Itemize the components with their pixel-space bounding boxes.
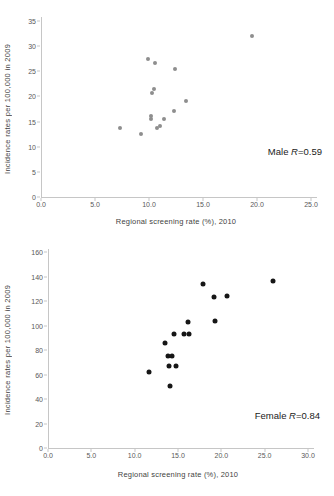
data-point — [187, 332, 192, 337]
y-tick-mark — [37, 46, 40, 47]
y-tick-mark — [44, 276, 47, 277]
data-point — [162, 117, 166, 121]
y-tick-label: 15 — [28, 118, 36, 125]
y-tick-mark — [44, 301, 47, 302]
y-tick-mark — [37, 71, 40, 72]
y-tick-label: 140 — [31, 273, 43, 280]
data-point — [174, 363, 179, 368]
correlation-annotation: Male R=0.59 — [268, 146, 322, 157]
x-axis-line — [41, 197, 317, 198]
y-tick-label: 10 — [28, 143, 36, 150]
data-point — [150, 91, 154, 95]
x-tick-label: 15.0 — [171, 452, 185, 459]
x-axis-tick-labels: 0.05.010.015.020.025.030.0 — [48, 452, 308, 462]
group-label: Male — [268, 146, 289, 157]
y-tick-mark — [44, 252, 47, 253]
group-label: Female — [255, 410, 287, 421]
data-point — [146, 57, 150, 61]
y-axis-tick-labels: 05101520253035 — [0, 21, 36, 197]
r-value: =0.59 — [298, 146, 322, 157]
correlation-annotation: Female R=0.84 — [255, 410, 320, 421]
x-tick-label: 5.0 — [86, 452, 96, 459]
data-point — [158, 124, 162, 128]
y-tick-label: 0 — [32, 194, 36, 201]
data-point — [186, 319, 191, 324]
data-point — [271, 279, 276, 284]
x-tick-label: 20.0 — [250, 201, 264, 208]
y-axis-tick-labels: 020406080100120140160 — [0, 252, 43, 448]
data-point — [153, 61, 157, 65]
y-tick-label: 5 — [32, 168, 36, 175]
data-point — [167, 363, 172, 368]
data-point — [213, 318, 218, 323]
y-tick-mark — [37, 21, 40, 22]
x-tick-label: 25.0 — [304, 201, 318, 208]
data-point — [201, 281, 206, 286]
data-point — [225, 294, 230, 299]
x-axis-line — [48, 448, 314, 449]
data-point — [139, 132, 143, 136]
data-point — [168, 383, 173, 388]
plot-area — [41, 21, 311, 197]
data-point — [172, 109, 176, 113]
r-symbol: R — [291, 146, 298, 157]
data-point — [147, 370, 152, 375]
data-point — [173, 67, 177, 71]
y-tick-mark — [44, 423, 47, 424]
y-tick-label: 120 — [31, 298, 43, 305]
y-tick-mark — [37, 146, 40, 147]
y-tick-mark — [44, 374, 47, 375]
x-tick-label: 25.0 — [258, 452, 272, 459]
data-point — [250, 34, 254, 38]
data-point — [171, 332, 176, 337]
r-value: =0.84 — [296, 410, 320, 421]
x-axis-title: Regional screening rate (%), 2010 — [41, 217, 311, 226]
x-axis-tick-labels: 0.05.010.015.020.025.0 — [41, 201, 311, 211]
y-tick-mark — [37, 121, 40, 122]
y-tick-label: 20 — [28, 93, 36, 100]
x-tick-label: 30.0 — [301, 452, 315, 459]
x-tick-label: 20.0 — [215, 452, 229, 459]
y-tick-mark — [37, 96, 40, 97]
x-tick-label: 10.0 — [142, 201, 156, 208]
data-point — [118, 126, 122, 130]
y-tick-label: 100 — [31, 322, 43, 329]
r-symbol: R — [289, 410, 296, 421]
data-point — [149, 117, 153, 121]
x-tick-label: 10.0 — [128, 452, 142, 459]
y-tick-mark — [44, 399, 47, 400]
data-point — [169, 354, 174, 359]
y-tick-label: 0 — [39, 445, 43, 452]
y-tick-label: 160 — [31, 249, 43, 256]
y-tick-label: 80 — [35, 347, 43, 354]
x-tick-label: 0.0 — [43, 452, 53, 459]
y-tick-label: 35 — [28, 18, 36, 25]
x-tick-label: 5.0 — [90, 201, 100, 208]
y-tick-label: 25 — [28, 68, 36, 75]
male-scatter-chart: Incidence rates per 100,000 in 2009 0510… — [0, 0, 334, 248]
y-tick-label: 30 — [28, 43, 36, 50]
data-point — [152, 87, 156, 91]
x-tick-label: 15.0 — [196, 201, 210, 208]
data-point — [163, 340, 168, 345]
y-tick-label: 20 — [35, 420, 43, 427]
y-tick-label: 60 — [35, 371, 43, 378]
data-point — [184, 99, 188, 103]
x-tick-label: 0.0 — [36, 201, 46, 208]
y-tick-mark — [44, 325, 47, 326]
scatter-plots-figure: Incidence rates per 100,000 in 2009 0510… — [0, 0, 334, 496]
x-axis-title: Regional screening rate (%), 2010 — [48, 470, 308, 479]
female-scatter-chart: Incidence rates per 100,000 in 2009 0204… — [0, 248, 334, 496]
y-tick-mark — [44, 350, 47, 351]
y-tick-label: 40 — [35, 396, 43, 403]
y-tick-mark — [37, 171, 40, 172]
data-point — [212, 295, 217, 300]
